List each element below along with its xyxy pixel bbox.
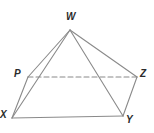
geometry-figure: W P Z X Y <box>0 0 154 133</box>
edge-wz <box>70 30 137 77</box>
edge-wy <box>70 30 123 116</box>
vertex-label-w: W <box>66 12 75 22</box>
edge-wp <box>28 30 70 77</box>
vertex-label-x: X <box>0 110 7 120</box>
vertex-label-p: P <box>14 69 21 79</box>
edge-xy <box>12 116 123 118</box>
edge-yz <box>123 77 137 116</box>
vertex-label-y: Y <box>126 115 133 125</box>
vertex-label-z: Z <box>140 69 146 79</box>
edge-layer <box>12 30 137 118</box>
